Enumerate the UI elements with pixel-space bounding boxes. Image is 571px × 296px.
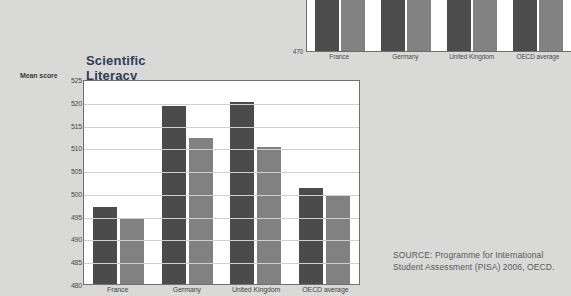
bar bbox=[299, 188, 323, 284]
y-axis-title: Mean score bbox=[20, 72, 58, 79]
top-cropped-chart: 480475470 FranceGermanyUnited KingdomOEC… bbox=[270, 0, 571, 52]
y-tick-480: 480 bbox=[71, 282, 82, 289]
top-chart-bar-group bbox=[439, 0, 505, 51]
y-tick-490: 490 bbox=[71, 236, 82, 243]
top-chart-bar bbox=[315, 0, 339, 51]
bar-group bbox=[84, 81, 153, 284]
grid-line bbox=[84, 172, 359, 173]
grid-line bbox=[84, 104, 359, 105]
x-axis-labels: FranceGermanyUnited KingdomOECD average bbox=[83, 286, 360, 293]
y-tick-510: 510 bbox=[71, 145, 82, 152]
top-chart-x-label-germany: Germany bbox=[372, 53, 438, 60]
y-tick-515: 515 bbox=[71, 122, 82, 129]
bar-group bbox=[153, 81, 222, 284]
bar bbox=[189, 138, 213, 284]
top-chart-x-label-united-kingdom: United Kingdom bbox=[439, 53, 505, 60]
source-note: SOURCE: Programme for International Stud… bbox=[393, 249, 571, 273]
top-chart-plot-area bbox=[306, 0, 571, 52]
top-chart-bar-group bbox=[373, 0, 439, 51]
x-label-germany: Germany bbox=[152, 286, 221, 293]
x-label-oecd-average: OECD average bbox=[291, 286, 360, 293]
grid-line bbox=[84, 149, 359, 150]
grid-line bbox=[84, 218, 359, 219]
top-chart-y-tick-470: 470 bbox=[293, 48, 303, 55]
top-chart-bar bbox=[473, 0, 497, 51]
y-tick-525: 525 bbox=[71, 77, 82, 84]
top-chart-bar bbox=[407, 0, 431, 51]
y-tick-495: 495 bbox=[71, 213, 82, 220]
top-chart-x-label-oecd-average: OECD average bbox=[505, 53, 571, 60]
bar-groups bbox=[84, 81, 359, 284]
top-chart-bar bbox=[447, 0, 471, 51]
top-chart-bar-groups bbox=[307, 0, 571, 51]
y-tick-485: 485 bbox=[71, 259, 82, 266]
top-chart-x-labels: FranceGermanyUnited KingdomOECD average bbox=[306, 53, 571, 60]
y-tick-505: 505 bbox=[71, 168, 82, 175]
top-chart-bar-group bbox=[505, 0, 571, 51]
top-chart-bar bbox=[341, 0, 365, 51]
grid-line bbox=[84, 195, 359, 196]
top-chart-bar bbox=[381, 0, 405, 51]
y-axis-ticks: 525520515510505500495490485480 bbox=[54, 73, 82, 285]
top-chart-y-axis: 480475470 bbox=[270, 0, 306, 52]
top-chart-bar-group bbox=[307, 0, 373, 51]
grid-line bbox=[84, 263, 359, 264]
plot-area bbox=[83, 80, 360, 285]
bar-group bbox=[290, 81, 359, 284]
grid-line bbox=[84, 127, 359, 128]
bar bbox=[230, 102, 254, 284]
grid-line bbox=[84, 240, 359, 241]
bar-group bbox=[222, 81, 291, 284]
chart-title: Scientific Literacy bbox=[86, 53, 146, 83]
top-chart-bar bbox=[539, 0, 563, 51]
y-tick-520: 520 bbox=[71, 99, 82, 106]
x-label-france: France bbox=[83, 286, 152, 293]
x-label-united-kingdom: United Kingdom bbox=[222, 286, 291, 293]
top-chart-x-label-france: France bbox=[306, 53, 372, 60]
top-chart-bar bbox=[513, 0, 537, 51]
bar bbox=[120, 218, 144, 284]
y-tick-500: 500 bbox=[71, 190, 82, 197]
